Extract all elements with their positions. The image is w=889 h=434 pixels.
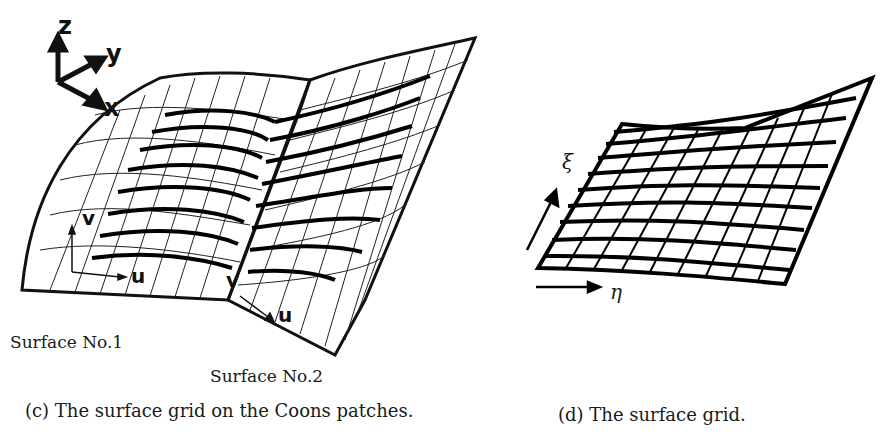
xyz-axes-icon (51, 36, 104, 108)
axis-label-y: y (106, 40, 122, 68)
eta-arrow-icon (536, 282, 600, 292)
surface-2-label: Surface No.2 (210, 366, 323, 386)
param-label-v-surface-1: v (82, 206, 95, 230)
axis-label-x: x (104, 94, 119, 122)
figure-d-caption: (d) The surface grid. (558, 404, 746, 425)
param-label-v-surface-2: v (226, 268, 239, 292)
figure-d-surface-grid: ξ η (d) The surface grid. (500, 0, 889, 434)
figure-c-coons-patches: z y x v u v u Surface No.1 Surface No.2 … (0, 0, 500, 434)
xi-label: ξ (562, 150, 573, 174)
param-label-u-surface-2: u (278, 303, 292, 327)
axis-label-z: z (58, 12, 72, 40)
surface-2-outline (228, 38, 475, 355)
figure-c-caption: (c) The surface grid on the Coons patche… (25, 400, 413, 421)
surface-grid-drawing (500, 0, 889, 320)
eta-label: η (610, 280, 622, 304)
param-label-u-surface-1: u (131, 264, 145, 288)
surface-1-label: Surface No.1 (10, 332, 123, 352)
